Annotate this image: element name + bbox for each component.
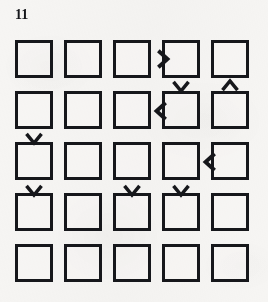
chevron-down-icon (24, 128, 44, 148)
grid-cell-r1-c5[interactable] (211, 40, 249, 78)
puzzle-page: 11 (0, 0, 268, 302)
grid-cell-r2-c5[interactable] (211, 91, 249, 129)
chevron-down-icon (171, 180, 191, 200)
chevron-down-icon (122, 180, 142, 200)
grid-cell-r4-c2[interactable] (64, 193, 102, 231)
grid-cell-r1-c2[interactable] (64, 40, 102, 78)
grid-cell-r3-c3[interactable] (113, 142, 151, 180)
grid-cell-r5-c5[interactable] (211, 244, 249, 282)
grid-cell-r4-c5[interactable] (211, 193, 249, 231)
page-title: 11 (15, 8, 28, 22)
grid-cell-r5-c1[interactable] (15, 244, 53, 282)
grid-cell-r5-c3[interactable] (113, 244, 151, 282)
grid-cell-r3-c2[interactable] (64, 142, 102, 180)
grid-cell-r2-c1[interactable] (15, 91, 53, 129)
chevron-left-icon (200, 151, 222, 173)
grid-cell-r3-c4[interactable] (162, 142, 200, 180)
grid-cell-r5-c2[interactable] (64, 244, 102, 282)
chevron-down-icon (24, 180, 44, 200)
grid-cell-r1-c1[interactable] (15, 40, 53, 78)
chevron-right-icon (151, 48, 173, 70)
chevron-down-icon (171, 76, 191, 96)
grid-cell-r1-c3[interactable] (113, 40, 151, 78)
grid-cell-r2-c2[interactable] (64, 91, 102, 129)
grid-cell-r5-c4[interactable] (162, 244, 200, 282)
grid-cell-r2-c3[interactable] (113, 91, 151, 129)
chevron-left-icon (151, 100, 173, 122)
chevron-up-icon (220, 76, 240, 96)
